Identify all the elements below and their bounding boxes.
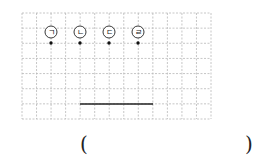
answer-open-paren: ( (80, 134, 88, 154)
point-label: ㄷ (106, 28, 113, 37)
diagram-stage: ㄱㄴㄷㄹ ( ) (0, 0, 255, 167)
point-label: ㄴ (77, 28, 84, 37)
answer-blank[interactable] (92, 136, 242, 154)
point-dot (49, 41, 52, 44)
answer-close-paren: ) (245, 134, 253, 154)
point-dot (107, 41, 110, 44)
point-dot (78, 41, 81, 44)
point-label: ㄱ (48, 28, 55, 37)
point-label: ㄹ (135, 28, 142, 37)
point-dot (136, 41, 139, 44)
